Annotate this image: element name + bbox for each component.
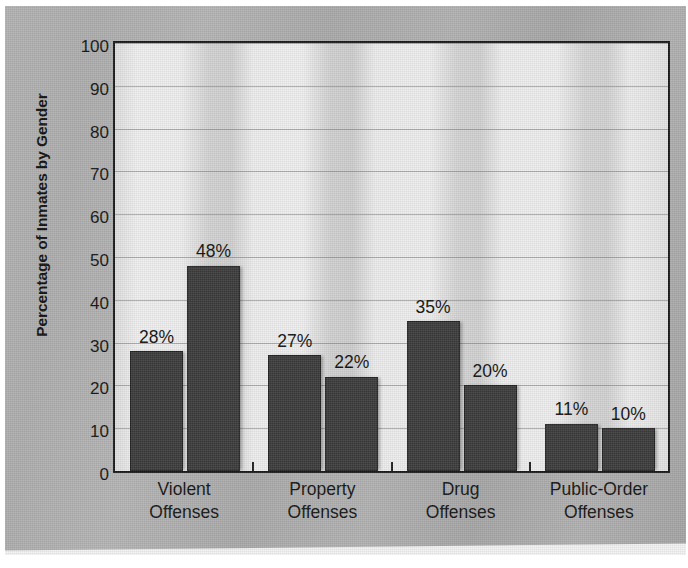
bar [407,321,460,471]
bar [268,355,321,471]
scanned-page: Percentage of Inmates by Gender 10090807… [5,6,686,555]
gridline [115,86,668,87]
y-axis-tick-label: 100 [53,38,109,55]
bar [325,377,378,471]
y-axis-tick-label: 90 [53,80,109,97]
category-label-line: Property [253,478,391,501]
x-axis-category-labels: ViolentOffensesPropertyOffensesDrugOffen… [113,478,670,538]
bar [602,428,655,471]
bar [545,424,598,471]
bar [187,266,240,471]
bar-value-label: 35% [399,299,468,317]
x-axis-category-label: PropertyOffenses [253,478,391,524]
gridline [115,129,668,130]
y-axis-tick-label: 50 [53,252,109,269]
category-label-line: Offenses [253,501,391,524]
x-axis-category-label: Public-OrderOffenses [530,478,668,524]
x-axis-category-label: DrugOffenses [392,478,530,524]
gridline [115,43,668,44]
x-axis-tick [391,462,393,471]
plot-area: 28%48%27%22%35%20%11%10% [113,41,670,473]
bar-value-label: 20% [456,363,525,381]
bar-value-label: 10% [594,406,663,424]
bar [130,351,183,471]
x-axis-tick [529,462,531,471]
bar-value-label: 22% [317,354,386,372]
bar-value-label: 48% [179,243,248,261]
y-axis-tick-label: 0 [53,466,109,483]
y-axis-tick-label: 80 [53,123,109,140]
category-label-line: Offenses [392,501,530,524]
bar [464,385,517,471]
gridline [115,214,668,215]
y-axis-tick-label: 60 [53,209,109,226]
y-axis-tick-label: 10 [53,423,109,440]
category-label-line: Offenses [115,501,253,524]
y-axis-tick-label: 20 [53,380,109,397]
y-axis-tick-label: 30 [53,337,109,354]
y-axis-tick-label: 40 [53,294,109,311]
bar-value-label: 27% [260,333,329,351]
y-axis-tick-labels: 1009080706050403020100 [53,32,109,482]
bar-value-label: 28% [122,329,191,347]
x-axis-category-label: ViolentOffenses [115,478,253,524]
category-label-line: Public-Order [530,478,668,501]
y-axis-tick-label: 70 [53,166,109,183]
category-label-line: Offenses [530,501,668,524]
category-label-line: Drug [392,478,530,501]
category-label-line: Violent [115,478,253,501]
x-axis-tick [252,462,254,471]
gridline [115,171,668,172]
